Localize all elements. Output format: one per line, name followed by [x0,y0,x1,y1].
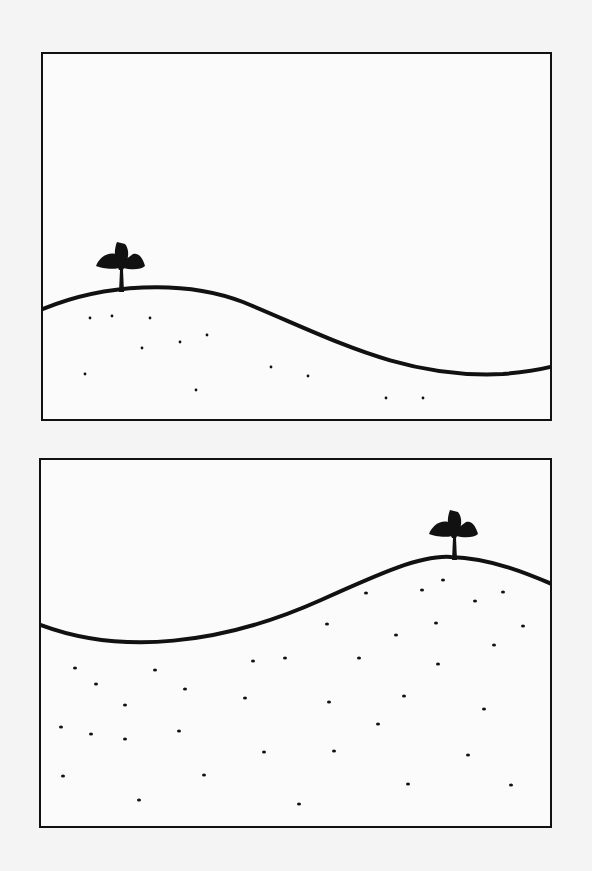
illustration-panel-top [41,52,552,421]
seed-dot [202,773,206,776]
seed-dot [89,732,93,735]
seed-dot [492,643,496,646]
seed-dot [262,750,266,753]
seed-dot [364,591,368,594]
seed-dot [501,590,505,593]
seedling-icon [429,510,478,560]
seed-dot [509,783,513,786]
seed-dot [283,656,287,659]
seed-dot [327,700,331,703]
illustration-panel-bottom [39,458,552,828]
seed-dot [422,397,425,400]
seed-dot [482,707,486,710]
seed-dot [466,753,470,756]
seed-dot [436,662,440,665]
seed-dot [89,317,92,320]
seed-dot [59,725,63,728]
seed-dot [243,696,247,699]
seed-dot [183,687,187,690]
hill-scene-bottom [41,460,552,828]
seed-dot [84,373,87,376]
seed-dot [251,659,255,662]
seed-dot [270,366,273,369]
seed-dot [123,703,127,706]
seed-dot [332,749,336,752]
hill-scene-top [43,54,552,421]
seed-dot [141,347,144,350]
seed-dot [177,729,181,732]
seed-dot [307,375,310,378]
seed-dot [195,389,198,392]
seed-dot [149,317,152,320]
seed-dot [73,666,77,669]
seed-dot [521,624,525,627]
seed-dot [357,656,361,659]
seed-dot [61,774,65,777]
seed-dot [153,668,157,671]
seed-dot [434,621,438,624]
seed-dot [123,737,127,740]
seed-dot [111,315,114,318]
seed-dot [420,588,424,591]
seed-dot [441,578,445,581]
seed-dot [137,798,141,801]
hill-line [43,287,552,374]
seed-dot [376,722,380,725]
seed-dot [406,782,410,785]
seed-dot [325,622,329,625]
seed-dot [297,802,301,805]
seed-dot [402,694,406,697]
seed-dot [473,599,477,602]
seed-dot [206,334,209,337]
seed-dot [94,682,98,685]
seed-dot [179,341,182,344]
seed-dot [394,633,398,636]
seed-dot [385,397,388,400]
seedling-icon [96,242,145,292]
